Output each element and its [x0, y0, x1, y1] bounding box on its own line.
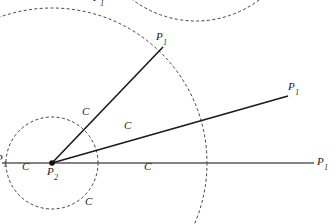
- intersection-label-c-baseline-right: C: [144, 161, 151, 172]
- intersection-label-c-bottom: C: [85, 196, 92, 207]
- intersection-label-c-upper-ray: C: [82, 106, 89, 117]
- point-label-subscript: 1: [324, 163, 328, 172]
- intersection-label-c-middle-ray: C: [124, 120, 131, 131]
- point-label-subscript: 1: [295, 88, 299, 97]
- point-label-base: P: [317, 155, 324, 167]
- point-label-base: P: [156, 30, 163, 42]
- point-label-p2-vertex: P2: [47, 166, 57, 180]
- point-label-subscript: 1: [3, 160, 7, 169]
- point-label-subscript: 2: [54, 173, 58, 182]
- point-label-subscript: 1: [163, 38, 167, 47]
- point-label-base: P: [288, 80, 295, 92]
- large-dashed-circle: [0, 8, 207, 224]
- point-label-p1-right: P1: [317, 156, 327, 170]
- point-label-p1-middle: P1: [288, 81, 298, 95]
- figure-canvas: [0, 0, 336, 224]
- point-label-p1-left-edge: P1: [0, 153, 6, 167]
- geometry-figure: P1 P1 P1 P1 P1 P2 C C C C C: [0, 0, 336, 224]
- point-label-p1-upper: P1: [156, 31, 166, 45]
- point-label-base: P: [47, 165, 54, 177]
- point-label-subscript: 1: [100, 0, 104, 8]
- ray-to-p1-upper: [52, 47, 163, 163]
- point-label-base: P: [93, 0, 100, 3]
- intersection-label-c-baseline-left: C: [22, 161, 29, 172]
- point-label-p1-top-edge: P1: [93, 0, 103, 6]
- top-partial-dashed-arc: [91, 0, 301, 21]
